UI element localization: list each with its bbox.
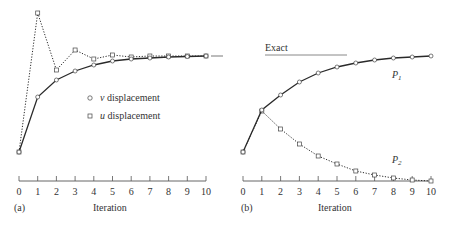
tick-label: 8 bbox=[166, 186, 171, 197]
series-p1 bbox=[243, 56, 431, 152]
circle-marker-icon bbox=[354, 61, 358, 65]
square-marker-icon bbox=[92, 57, 96, 61]
circle-marker-icon bbox=[88, 96, 92, 100]
circle-marker-icon bbox=[373, 58, 377, 62]
tick-label: 5 bbox=[335, 186, 340, 197]
circle-marker-icon bbox=[316, 71, 320, 75]
tick-label: 7 bbox=[147, 186, 152, 197]
panel-b-label: (b) bbox=[241, 202, 253, 214]
tick-label: 4 bbox=[316, 186, 321, 197]
tick-label: 3 bbox=[73, 186, 78, 197]
panel-b-chart: 012345678910 Exact P1 P2 (b) Iteration bbox=[241, 42, 437, 214]
p1-label: P1 bbox=[391, 69, 402, 82]
tick-label: 6 bbox=[353, 186, 358, 197]
panel-b-x-axis-title: Iteration bbox=[318, 202, 352, 213]
tick-label: 5 bbox=[110, 186, 115, 197]
square-marker-icon bbox=[54, 68, 58, 72]
tick-label: 9 bbox=[410, 186, 415, 197]
tick-label: 1 bbox=[259, 186, 264, 197]
panel-a-label: (a) bbox=[14, 202, 25, 214]
circle-marker-icon bbox=[36, 95, 40, 99]
tick-label: 3 bbox=[297, 186, 302, 197]
square-marker-icon bbox=[373, 173, 377, 177]
legend-v-label: v displacement bbox=[100, 92, 160, 103]
square-marker-icon bbox=[88, 114, 92, 118]
square-marker-icon bbox=[279, 127, 283, 131]
panel-a-legend: v displacement u displacement bbox=[88, 92, 161, 121]
square-marker-icon bbox=[429, 179, 433, 183]
circle-marker-icon bbox=[410, 55, 414, 59]
panel-a-x-axis: 012345678910 bbox=[17, 176, 212, 197]
tick-label: 0 bbox=[17, 186, 22, 197]
square-marker-icon bbox=[354, 169, 358, 173]
tick-label: 1 bbox=[35, 186, 40, 197]
circle-marker-icon bbox=[429, 54, 433, 58]
tick-label: 4 bbox=[91, 186, 96, 197]
exact-label: Exact bbox=[265, 42, 288, 53]
tick-label: 6 bbox=[129, 186, 134, 197]
circle-marker-icon bbox=[54, 78, 58, 82]
series-v-displacement bbox=[19, 56, 206, 152]
panel-b-x-axis: 012345678910 bbox=[241, 176, 437, 197]
tick-label: 10 bbox=[426, 186, 436, 197]
circle-marker-icon bbox=[92, 63, 96, 67]
square-marker-icon bbox=[335, 162, 339, 166]
circle-marker-icon bbox=[148, 56, 152, 60]
circle-marker-icon bbox=[73, 69, 77, 73]
panel-a-x-axis-title: Iteration bbox=[93, 202, 127, 213]
square-marker-icon bbox=[391, 176, 395, 180]
legend-u-label: u displacement bbox=[100, 110, 160, 121]
circle-marker-icon bbox=[111, 59, 115, 63]
circle-marker-icon bbox=[335, 65, 339, 69]
square-marker-icon bbox=[410, 178, 414, 182]
panel-b-series bbox=[241, 54, 433, 183]
tick-label: 2 bbox=[278, 186, 283, 197]
circle-marker-icon bbox=[279, 93, 283, 97]
square-marker-icon bbox=[316, 154, 320, 158]
tick-label: 10 bbox=[201, 186, 211, 197]
tick-label: 0 bbox=[241, 186, 246, 197]
circle-marker-icon bbox=[204, 54, 208, 58]
tick-label: 8 bbox=[391, 186, 396, 197]
figure: 012345678910 v displacement u displaceme… bbox=[0, 0, 456, 226]
square-marker-icon bbox=[297, 142, 301, 146]
circle-marker-icon bbox=[391, 56, 395, 60]
square-marker-icon bbox=[73, 48, 77, 52]
panel-a-chart: 012345678910 v displacement u displaceme… bbox=[14, 11, 223, 214]
tick-label: 9 bbox=[185, 186, 190, 197]
p2-label: P2 bbox=[391, 154, 402, 167]
series-u-displacement bbox=[19, 13, 206, 152]
circle-marker-icon bbox=[241, 150, 245, 154]
circle-marker-icon bbox=[17, 150, 21, 154]
circle-marker-icon bbox=[260, 108, 264, 112]
panel-a-series bbox=[17, 11, 208, 154]
circle-marker-icon bbox=[297, 80, 301, 84]
tick-label: 7 bbox=[372, 186, 377, 197]
circle-marker-icon bbox=[185, 55, 189, 59]
tick-label: 2 bbox=[54, 186, 59, 197]
circle-marker-icon bbox=[129, 57, 133, 61]
circle-marker-icon bbox=[167, 55, 171, 59]
square-marker-icon bbox=[111, 53, 115, 57]
series-p2 bbox=[243, 111, 431, 181]
square-marker-icon bbox=[36, 11, 40, 15]
